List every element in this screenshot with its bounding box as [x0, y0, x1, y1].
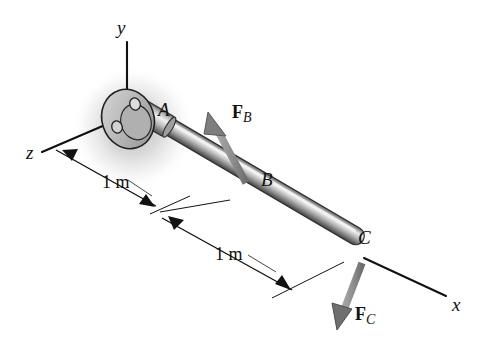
z-axis-label: z: [26, 143, 33, 162]
force-label-fc: FC: [355, 305, 375, 323]
force-subscript-fb: B: [243, 110, 252, 125]
force-subscript-fc: C: [366, 312, 375, 327]
force-label-fb: FB: [232, 103, 252, 121]
point-label-a: A: [158, 100, 170, 119]
figure-canvas: [0, 0, 480, 356]
dimension-label-ab: 1 m: [102, 173, 130, 191]
force-symbol-fb: F: [232, 102, 243, 122]
x-axis-label: x: [452, 295, 460, 314]
x-axis-line: [364, 258, 446, 296]
dimension-label-bc: 1 m: [215, 245, 243, 263]
force-symbol-fc: F: [355, 304, 366, 324]
y-axis-label: y: [117, 18, 125, 37]
point-label-b: B: [261, 170, 273, 189]
statics-figure: y z x A B C FB FC 1 m 1 m: [0, 0, 480, 356]
point-label-c: C: [358, 228, 371, 247]
